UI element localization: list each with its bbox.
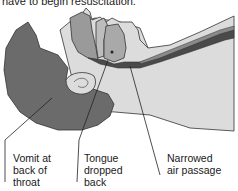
label-vomit: Vomit at back of throat [13, 152, 51, 188]
label-tongue: Tongue dropped back [84, 152, 123, 188]
ear-shape [66, 73, 96, 95]
label-air: Narrowed air passage [167, 152, 221, 176]
